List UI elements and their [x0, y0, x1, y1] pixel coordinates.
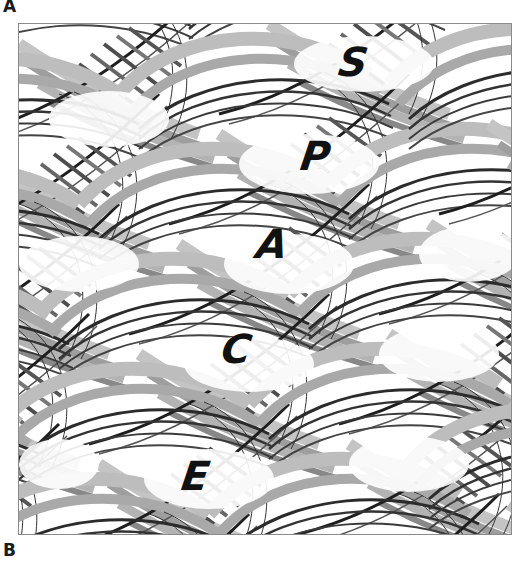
- letter-p: P: [298, 136, 333, 176]
- letter-s: S: [336, 42, 370, 82]
- panel-label-b: B: [3, 540, 16, 560]
- panel-label-a: A: [3, 0, 16, 16]
- letter-c: C: [219, 329, 254, 369]
- letter-a: A: [254, 224, 291, 264]
- letter-e: E: [179, 456, 212, 496]
- artwork-frame: S P A C E: [18, 23, 512, 535]
- abstract-swirl-pattern: [19, 24, 512, 535]
